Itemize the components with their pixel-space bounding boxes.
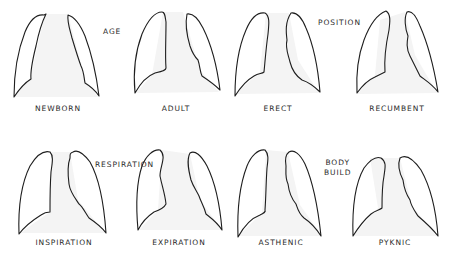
caption-newborn: NEWBORN bbox=[35, 105, 81, 113]
section-label-respiration: RESPIRATION bbox=[95, 160, 154, 170]
lung-variation-figure: AGE POSITION RESPIRATION BODY BUILD NEWB… bbox=[0, 0, 451, 253]
section-label-body: BODY bbox=[324, 158, 351, 168]
lung-outlines bbox=[0, 0, 451, 253]
lung-pair-asthenic bbox=[238, 150, 322, 237]
section-label-position: POSITION bbox=[318, 18, 361, 28]
caption-adult: ADULT bbox=[162, 105, 191, 113]
lung-pair-inspiration bbox=[19, 151, 106, 234]
section-label-build: BUILD bbox=[324, 168, 351, 178]
lung-pair-erect bbox=[235, 13, 320, 96]
lung-pair-pyknic bbox=[353, 157, 438, 236]
caption-recumbent: RECUMBENT bbox=[369, 105, 424, 113]
caption-expiration: EXPIRATION bbox=[152, 239, 205, 247]
section-label-body-build: BODY BUILD bbox=[324, 158, 351, 178]
lung-pair-recumbent bbox=[357, 11, 438, 94]
caption-pyknic: PYKNIC bbox=[379, 239, 411, 247]
section-label-age: AGE bbox=[103, 27, 121, 37]
caption-asthenic: ASTHENIC bbox=[258, 239, 303, 247]
caption-inspiration: INSPIRATION bbox=[36, 239, 93, 247]
caption-erect: ERECT bbox=[263, 105, 292, 113]
lung-pair-adult bbox=[134, 12, 220, 93]
lung-pair-newborn bbox=[14, 14, 99, 97]
